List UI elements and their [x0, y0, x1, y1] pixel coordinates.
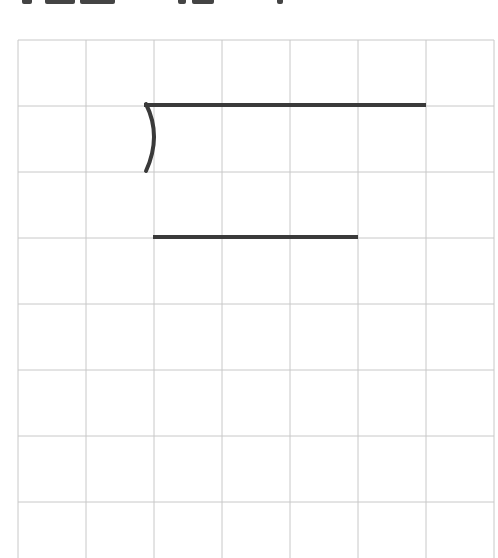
grid-lines	[18, 40, 494, 558]
character-strokes	[144, 104, 426, 237]
writing-grid	[0, 0, 498, 558]
curved-stroke	[146, 104, 154, 171]
